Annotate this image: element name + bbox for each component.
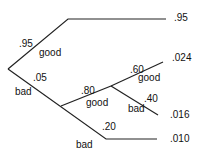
- label-root-bad: bad: [15, 87, 32, 97]
- outcome-bad-good-good: .024: [172, 53, 191, 63]
- prob-root-good: .95: [19, 39, 33, 49]
- label-bad-bad: bad: [76, 140, 93, 150]
- label-root-good: good: [39, 48, 61, 58]
- tree-lines: [0, 0, 197, 156]
- prob-bad-good: .80: [81, 86, 95, 96]
- outcome-root-good: .95: [174, 13, 188, 23]
- label-bad-good-bad: bad: [128, 104, 145, 114]
- probability-tree-diagram: .95 good .95 .05 bad .80 good .60 good .…: [0, 0, 197, 156]
- prob-bad-good-bad: .40: [144, 94, 158, 104]
- label-bad-good: good: [86, 98, 108, 108]
- label-bad-good-good: good: [138, 73, 160, 83]
- prob-root-bad: .05: [33, 73, 47, 83]
- outcome-bad-bad: .010: [170, 134, 189, 144]
- prob-bad-bad: .20: [102, 122, 116, 132]
- outcome-bad-good-bad: .016: [170, 110, 189, 120]
